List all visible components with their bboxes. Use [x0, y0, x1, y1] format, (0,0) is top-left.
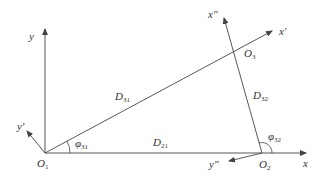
y-label: y: [28, 30, 34, 42]
d21-label: D21: [152, 136, 168, 150]
x-double-prime-label: x″: [207, 8, 218, 20]
y-prime-label: y′: [16, 120, 25, 132]
phi32-label: φ32: [268, 130, 282, 144]
y-double-prime-axis: [229, 153, 262, 161]
x-prime-axis: [45, 31, 272, 153]
y-double-prime-label: y″: [208, 158, 219, 170]
o3-label: O3: [244, 47, 256, 61]
y-prime-axis: [27, 131, 45, 153]
x-label: x: [302, 157, 308, 169]
diagram-canvas: y x x′ y′ x″ y″ O1 O2 O3 D31 D21 D32 φ31…: [0, 0, 324, 185]
x-prime-label: x′: [278, 25, 287, 37]
phi31-arc: [67, 141, 70, 153]
d32-label: D32: [252, 89, 268, 103]
x-double-prime-axis: [224, 18, 262, 153]
o2-label: O2: [259, 158, 271, 172]
d31-label: D31: [114, 90, 130, 104]
o1-label: O1: [37, 157, 49, 171]
phi31-label: φ31: [75, 137, 89, 151]
